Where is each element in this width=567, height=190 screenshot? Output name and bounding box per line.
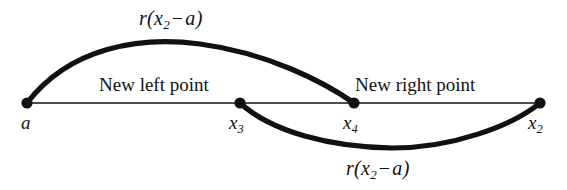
- bottom-curve-subscript: 2: [370, 167, 377, 182]
- top-curve-operator: −: [170, 7, 186, 29]
- point-label-x2-subscript: 2: [536, 122, 542, 136]
- bottom-curve-fn: r: [346, 157, 354, 179]
- point-label-x2: x2: [528, 113, 543, 136]
- top-curve-var: x: [154, 7, 163, 29]
- point-label-a: a: [21, 113, 31, 136]
- top-curve-subscript: 2: [163, 17, 170, 32]
- bottom-bracket-curve: [240, 103, 540, 148]
- point-label-x3-subscript: 3: [237, 122, 243, 136]
- top-curve-term: a: [185, 7, 195, 29]
- point-marker-x4: [348, 97, 359, 108]
- point-label-x4-subscript: 4: [351, 122, 357, 136]
- diagram-canvas: [0, 0, 567, 190]
- figure-golden-section-diagram: r(x2−a) r(x2−a) New left point New right…: [0, 0, 567, 190]
- bottom-curve-operator: −: [377, 157, 393, 179]
- point-label-x3: x3: [229, 113, 244, 136]
- point-label-x4: x4: [343, 113, 358, 136]
- new-right-point-label: New right point: [355, 75, 475, 94]
- bottom-curve-term: a: [392, 157, 402, 179]
- point-marker-x3: [234, 97, 245, 108]
- point-label-a-base: a: [21, 112, 31, 133]
- new-left-point-label: New left point: [99, 75, 209, 94]
- top-curve-close-paren: ): [196, 7, 203, 29]
- top-curve-label: r(x2−a): [139, 8, 203, 31]
- bottom-curve-var: x: [361, 157, 370, 179]
- point-marker-x2: [534, 97, 545, 108]
- bottom-curve-label: r(x2−a): [346, 158, 410, 181]
- bottom-curve-close-paren: ): [403, 157, 410, 179]
- point-marker-a: [21, 97, 32, 108]
- top-curve-fn: r: [139, 7, 147, 29]
